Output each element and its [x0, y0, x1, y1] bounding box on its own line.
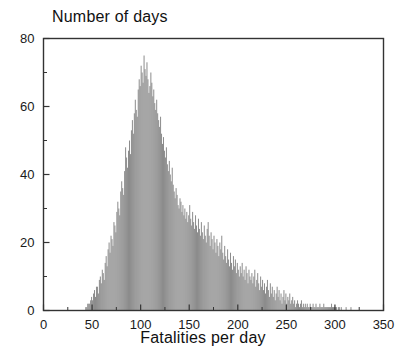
histogram-bar — [223, 260, 224, 311]
histogram-bar — [239, 277, 240, 311]
histogram-bar — [272, 287, 273, 311]
histogram-bar — [230, 253, 231, 311]
histogram-bar — [191, 226, 192, 311]
histogram-bar — [149, 86, 150, 310]
histogram-bar — [261, 287, 262, 311]
histogram-bar — [281, 294, 282, 311]
histogram-bar — [221, 236, 222, 311]
histogram-bar — [293, 304, 294, 311]
histogram-bar — [226, 263, 227, 311]
histogram-bar — [220, 249, 221, 310]
histogram-bar — [271, 294, 272, 311]
histogram-bar — [275, 300, 276, 310]
histogram-bar — [233, 256, 234, 310]
histogram-bar — [237, 263, 238, 311]
histogram-bar — [203, 239, 204, 310]
histogram-bar — [265, 294, 266, 311]
histogram-bar — [303, 304, 304, 311]
histogram-bar — [313, 304, 314, 311]
histogram-bar — [100, 277, 101, 311]
histogram-bar — [193, 222, 194, 310]
histogram-bar — [89, 304, 90, 311]
histogram-bar — [297, 300, 298, 310]
histogram-bar — [287, 297, 288, 311]
histogram-bar — [174, 192, 175, 311]
histogram-bar — [229, 266, 230, 310]
histogram-bar — [166, 147, 167, 310]
histogram-bar — [212, 239, 213, 310]
histogram-bar — [186, 212, 187, 311]
histogram-bar — [102, 270, 103, 311]
y-tick-label: 60 — [20, 99, 34, 114]
histogram-bar — [262, 280, 263, 311]
histogram-bar — [93, 294, 94, 311]
histogram-bar — [112, 246, 113, 311]
histogram-bar — [241, 273, 242, 310]
histogram-bar — [169, 161, 170, 311]
histogram-bar — [300, 304, 301, 311]
histogram-bar — [143, 83, 144, 311]
histogram-bar — [264, 283, 265, 310]
histogram-bar — [201, 222, 202, 310]
histogram-bar — [164, 151, 165, 311]
histogram-bar — [180, 202, 181, 311]
histogram-bar — [128, 151, 129, 311]
histogram-bar — [139, 79, 140, 310]
histogram-bar — [108, 249, 109, 310]
histogram-bar — [95, 297, 96, 311]
histogram-bar — [173, 185, 174, 311]
histogram-bar — [216, 239, 217, 310]
histogram-bar — [305, 304, 306, 311]
histogram-bar — [175, 198, 176, 310]
histogram-bar — [136, 110, 137, 311]
histogram-bar — [97, 287, 98, 311]
histogram-bar — [207, 229, 208, 311]
histogram-bar — [131, 130, 132, 310]
histogram-bar — [228, 260, 229, 311]
histogram-bar — [134, 113, 135, 310]
histogram-bar — [238, 270, 239, 311]
histogram-bar — [178, 205, 179, 310]
histogram-bar — [182, 205, 183, 310]
histogram-bar — [112, 239, 113, 310]
histogram-bar — [130, 154, 131, 310]
histogram-bar — [177, 195, 178, 311]
histogram-bar — [225, 256, 226, 310]
histogram-bars — [85, 56, 351, 311]
histogram-bar — [163, 137, 164, 310]
histogram-bar — [183, 215, 184, 310]
histogram-bar — [242, 263, 243, 311]
histogram-bar — [298, 304, 299, 311]
histogram-bar — [137, 117, 138, 311]
histogram-bar — [217, 246, 218, 311]
histogram-bar — [323, 304, 324, 311]
histogram-bar — [215, 253, 216, 311]
plot-area: 050100150200250300350020406080 — [0, 0, 406, 360]
histogram-bar — [255, 287, 256, 311]
histogram-bar — [222, 253, 223, 311]
histogram-bar — [263, 290, 264, 310]
histogram-bar — [235, 260, 236, 311]
histogram-bar — [110, 253, 111, 311]
histogram-bar — [96, 287, 97, 311]
histogram-bar — [109, 243, 110, 311]
histogram-bar — [114, 226, 115, 311]
y-tick-label: 40 — [20, 167, 34, 182]
histogram-bar — [257, 273, 258, 310]
histogram-bar — [111, 236, 112, 311]
histogram-bar — [99, 280, 100, 311]
histogram-figure: Number of days 0501001502002503003500204… — [0, 0, 406, 360]
histogram-bar — [277, 287, 278, 311]
histogram-bar — [167, 164, 168, 310]
histogram-bar — [209, 236, 210, 311]
histogram-bar — [208, 222, 209, 310]
histogram-bar — [319, 304, 320, 311]
histogram-bar — [274, 290, 275, 310]
histogram-bar — [98, 294, 99, 311]
histogram-bar — [270, 283, 271, 310]
histogram-bar — [161, 134, 162, 311]
histogram-bar — [151, 83, 152, 311]
histogram-bar — [94, 290, 95, 310]
histogram-bar — [267, 280, 268, 311]
histogram-bar — [214, 243, 215, 311]
